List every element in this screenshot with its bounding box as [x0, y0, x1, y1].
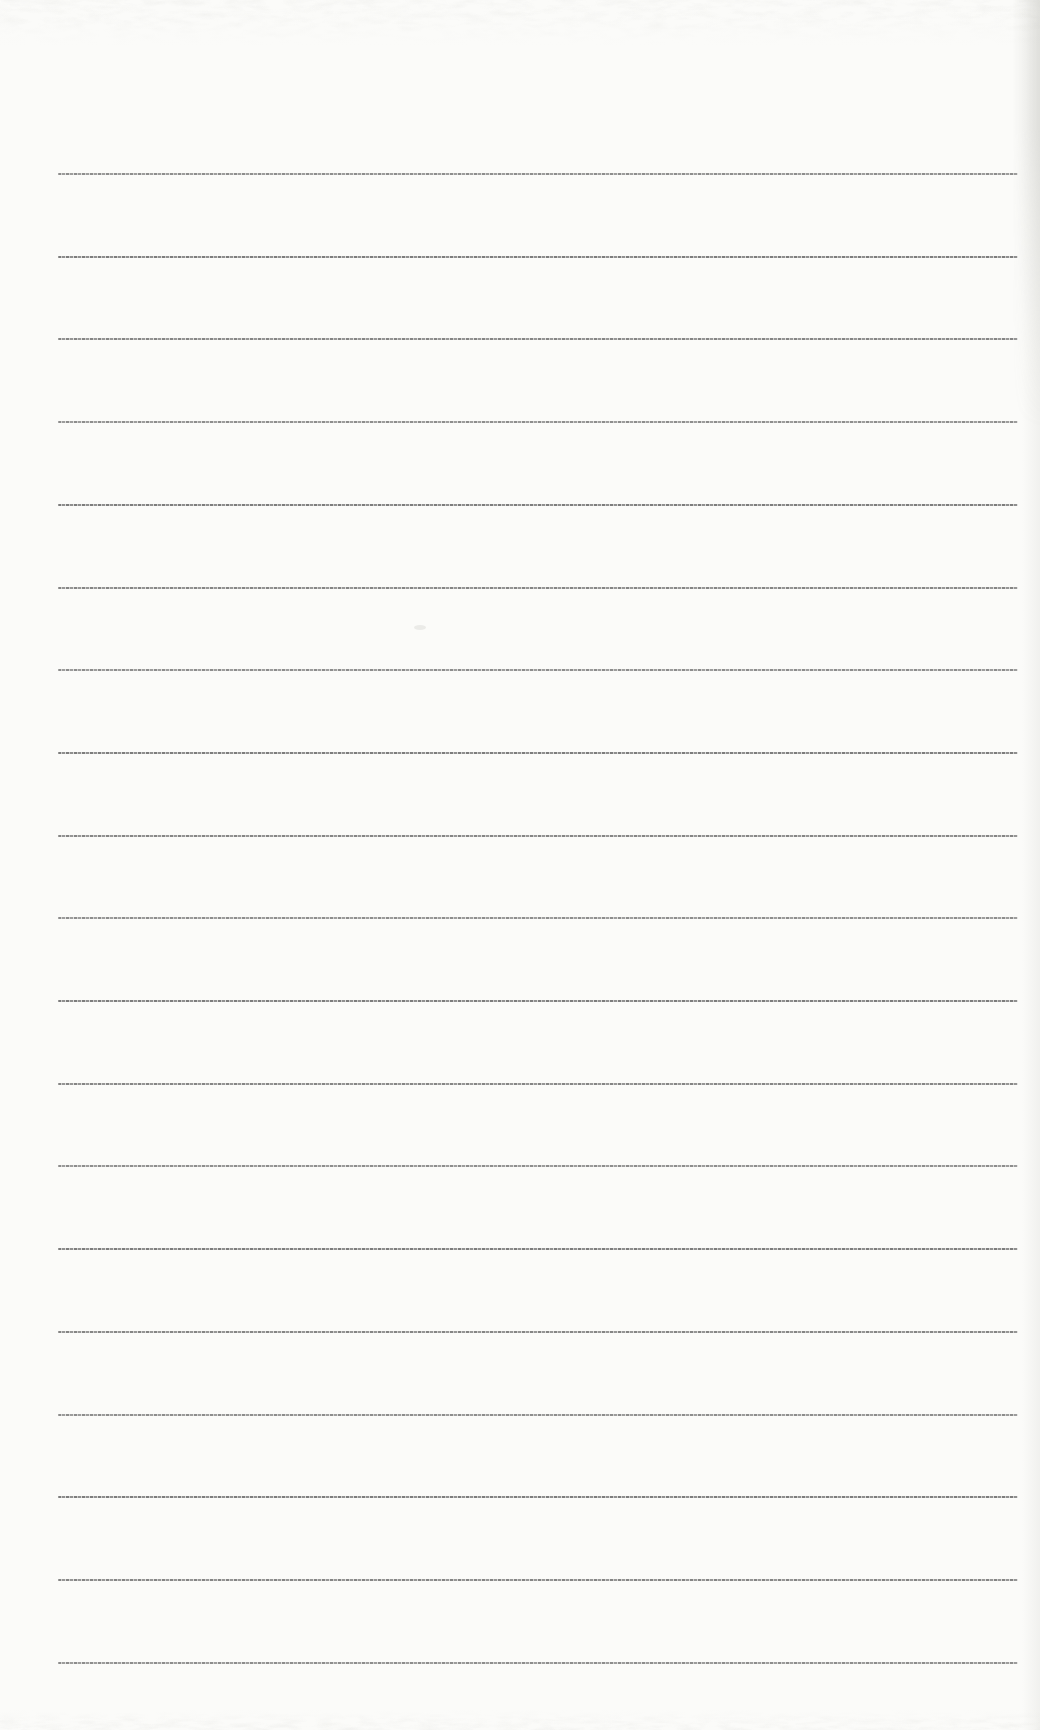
- ruled-line: [58, 421, 1018, 423]
- ruled-line: [58, 669, 1018, 671]
- ruled-line: [58, 1083, 1018, 1085]
- ruled-line: [58, 1000, 1018, 1002]
- ruled-line: [58, 256, 1018, 258]
- ruled-line: [58, 1248, 1018, 1250]
- ruled-line: [58, 1579, 1018, 1581]
- ruled-lines: [0, 0, 1040, 1730]
- ruled-line: [58, 338, 1018, 340]
- ruled-line: [58, 1414, 1018, 1416]
- ruled-line: [58, 1662, 1018, 1664]
- scanned-notebook-page: [0, 0, 1040, 1730]
- ruled-line: [58, 752, 1018, 754]
- ruled-line: [58, 587, 1018, 589]
- ruled-line: [58, 1331, 1018, 1333]
- ruled-line: [58, 835, 1018, 837]
- ruled-line: [58, 504, 1018, 506]
- ruled-line: [58, 173, 1018, 175]
- ruled-line: [58, 1496, 1018, 1498]
- ruled-line: [58, 1165, 1018, 1167]
- ruled-line: [58, 917, 1018, 919]
